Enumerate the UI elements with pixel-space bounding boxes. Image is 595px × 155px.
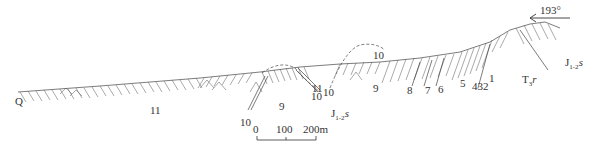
- formation-sub: 1-2: [569, 63, 578, 71]
- scale-tick-200m: 200m: [303, 124, 328, 135]
- formation-label-j12s-bottom: J1-2s: [331, 108, 349, 122]
- azimuth-label: 193°: [540, 5, 561, 16]
- layer-number: 1: [489, 73, 495, 84]
- layer-number: 9: [373, 83, 379, 94]
- layer-number: 9: [279, 101, 285, 112]
- layer-number: 10: [240, 117, 251, 128]
- formation-label-t3r: T3r: [522, 74, 537, 88]
- formation-sub: 1-2: [335, 114, 344, 122]
- formation-label-j12s-right: J1-2s: [565, 57, 583, 71]
- layer-number: 10: [373, 50, 384, 61]
- scale-bar-line: [257, 136, 316, 140]
- section-drawing: [0, 0, 595, 155]
- layer-number: 10: [323, 87, 334, 98]
- layer-number: 11: [150, 105, 161, 116]
- scale-tick-0: 0: [253, 124, 259, 135]
- layer-number: 5: [460, 78, 466, 89]
- formation-main: T: [522, 73, 529, 85]
- layer-number: 10: [311, 91, 322, 102]
- scale-tick-100: 100: [276, 124, 293, 135]
- layer-number: 432: [472, 81, 489, 92]
- geological-cross-section: 193° Q J1-2s J1-2s T3r 11 10 9 11 10 10 …: [0, 0, 595, 155]
- formation-suffix: s: [579, 56, 583, 68]
- formation-suffix: r: [532, 73, 536, 85]
- formation-suffix: s: [345, 107, 349, 119]
- layer-number: 7: [425, 85, 431, 96]
- layer-number: 6: [438, 84, 444, 95]
- layer-number: 8: [407, 85, 413, 96]
- formation-label-q: Q: [15, 96, 23, 107]
